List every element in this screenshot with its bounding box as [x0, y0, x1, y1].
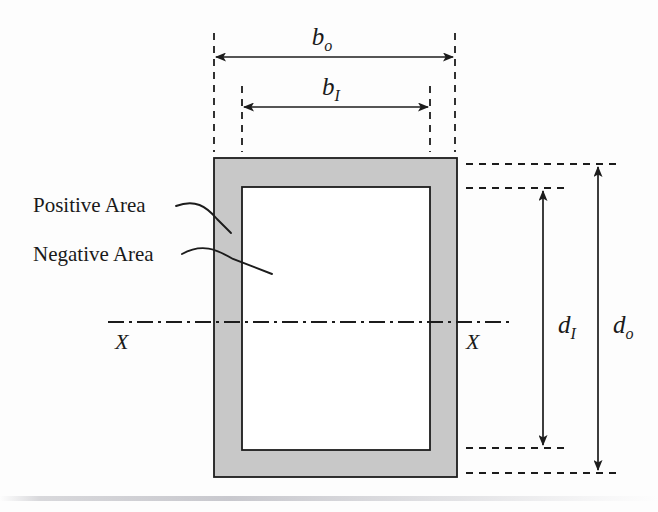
dimension-label-d-inner: dI	[558, 311, 577, 342]
dimension-label-b-outer: bo	[312, 23, 333, 54]
dim-subscript-b-inner: I	[334, 87, 341, 104]
negative-area-void	[242, 187, 430, 450]
dim-subscript-b-outer: o	[324, 37, 332, 54]
dimension-label-b-inner: bI	[322, 73, 341, 104]
dim-subscript-d-inner: I	[570, 325, 577, 342]
scan-artifact-line	[0, 496, 658, 501]
callout-label-positive-area: Positive Area	[33, 193, 146, 217]
dim-symbol-d-outer: d	[613, 311, 626, 338]
box-section-diagram: bo bI dI do X X Positive Area Negative	[0, 0, 658, 512]
axis-label-right: X	[465, 329, 481, 354]
dimension-label-d-outer: do	[613, 311, 634, 342]
dim-symbol-b-outer: b	[312, 23, 325, 50]
figure-canvas: bo bI dI do X X Positive Area Negative	[0, 0, 658, 512]
dim-symbol-d-inner: d	[558, 311, 571, 338]
dim-subscript-d-outer: o	[626, 325, 634, 342]
dim-symbol-b-inner: b	[322, 73, 335, 100]
axis-label-left: X	[114, 329, 130, 354]
callout-label-negative-area: Negative Area	[33, 242, 154, 266]
